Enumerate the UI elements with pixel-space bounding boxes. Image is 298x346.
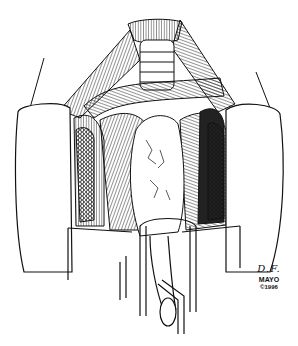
artist-signature: D.F. MAYO ©1996 [249,264,289,290]
signature-initials: D.F. [249,264,289,274]
surgical-clamps [120,219,196,335]
signature-copyright: ©1996 [249,284,289,290]
central-organ [130,116,184,236]
surgical-illustration [0,0,298,346]
signature-organization: MAYO [249,276,289,283]
